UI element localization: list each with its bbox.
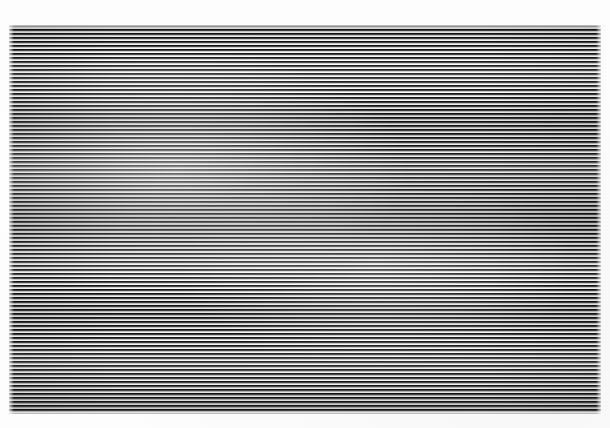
stripe-moire-layer <box>9 25 601 414</box>
screenshot-canvas <box>0 0 610 428</box>
horizontal-stripe-pattern <box>9 25 601 414</box>
